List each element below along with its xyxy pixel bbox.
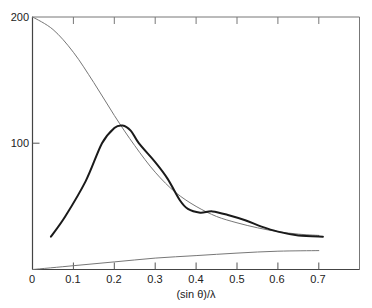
y-tick-label-200: 200	[11, 11, 29, 23]
y-tick-label-100: 100	[11, 137, 29, 149]
x-tick-label-0.3: 0.3	[147, 273, 162, 285]
axis-tick-labels: 200 100 0 0.1 0.2 0.3 0.4 0.5 0.6 0.7 (s…	[11, 11, 326, 300]
x-tick-label-0.6: 0.6	[269, 273, 284, 285]
x-tick-label-0: 0	[29, 273, 35, 285]
x-tick-label-0.1: 0.1	[65, 273, 80, 285]
data-series	[33, 17, 323, 270]
thin-curve-0	[33, 17, 319, 236]
x-tick-label-0.2: 0.2	[106, 273, 121, 285]
x-tick-label-0.7: 0.7	[310, 273, 325, 285]
thick-curve-1	[51, 125, 323, 236]
x-tick-label-0.4: 0.4	[188, 273, 203, 285]
thin-curve-2	[33, 251, 319, 270]
x-tick-label-0.5: 0.5	[229, 273, 244, 285]
plot-frame	[32, 17, 360, 270]
chart: 200 100 0 0.1 0.2 0.3 0.4 0.5 0.6 0.7 (s…	[0, 0, 372, 308]
x-axis-title: (sin θ)/λ	[176, 288, 216, 300]
